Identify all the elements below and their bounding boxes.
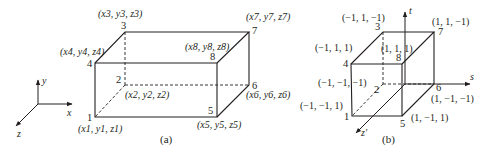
z-axis (16, 104, 38, 126)
panel-a: y x z 1 2 3 4 5 6 7 8 (x1, y1, z1) (x2, … (16, 8, 291, 146)
z-prime-axis (356, 84, 405, 133)
panel-b-caption: (b) (382, 133, 395, 146)
vertex-2-number: 2 (374, 84, 379, 95)
vertex-2-number: 2 (116, 74, 121, 85)
s-axis-label: s (470, 71, 474, 82)
vertex-2-coord: (−1, −1, −1) (318, 77, 367, 89)
vertex-8-coord: (1, 1, 1) (381, 43, 413, 55)
vertex-5-coord: (1, −1, 1) (411, 112, 448, 124)
vertex-5-number: 5 (400, 118, 405, 129)
vertex-5-number: 5 (208, 105, 213, 116)
vertex-3-number: 3 (121, 20, 126, 31)
vertex-6-coord: (x6, y6, z6) (246, 89, 291, 101)
vertex-4-number: 4 (87, 58, 93, 69)
vertex-5-coord: (x5, y5, z5) (197, 119, 242, 131)
vertex-3-coord: (−1, 1, −1) (342, 12, 385, 24)
vertex-7-number: 7 (438, 26, 443, 37)
x-axis-label: x (66, 107, 72, 118)
vertex-7-coord: (x7, y7, z7) (246, 11, 291, 23)
vertex-2-coord: (x2, y2, z2) (125, 89, 170, 101)
t-axis-label: t (409, 5, 412, 16)
vertex-4-number: 4 (343, 58, 349, 69)
vertex-1-number: 1 (87, 112, 92, 123)
hexahedron-element-figure: y x z 1 2 3 4 5 6 7 8 (x1, y1, z1) (x2, … (0, 0, 492, 155)
vertex-1-number: 1 (344, 111, 349, 122)
panel-a-caption: (a) (160, 133, 173, 146)
vertex-6-coord: (1, −1, −1) (431, 93, 474, 105)
vertex-1-coord: (−1, −1, 1) (300, 100, 343, 112)
vertex-8-coord: (x8, y8, z8) (185, 41, 230, 53)
vertex-4-coord: (−1, 1, 1) (315, 42, 352, 54)
vertex-7-number: 7 (252, 25, 257, 36)
z-prime-axis-label: z′ (360, 127, 368, 138)
z-axis-label: z (16, 128, 21, 139)
vertex-4-coord: (x4, y4, z4) (60, 46, 105, 58)
panel-b: t s z′ 1 2 3 4 5 6 7 8 (−1, −1, 1) (−1, … (300, 5, 474, 146)
vertex-3-coord: (x3, y3, z3) (98, 8, 143, 20)
y-axis-label: y (41, 75, 47, 86)
vertex-8-number: 8 (210, 51, 215, 62)
vertex-7-coord: (1, 1, −1) (432, 16, 469, 28)
vertex-6-number: 6 (436, 82, 441, 93)
global-axes: y x z (16, 75, 72, 139)
vertex-1-coord: (x1, y1, z1) (78, 123, 123, 135)
